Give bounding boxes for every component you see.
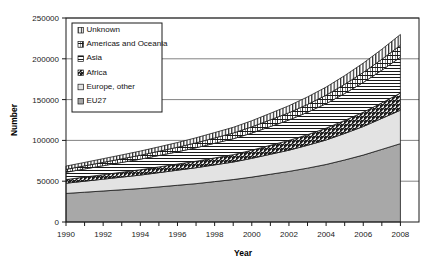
legend-label: Africa [87,68,108,77]
y-tick-label: 100000 [32,136,59,145]
chart-legend: UnknownAmericas and OceaniaAsiaAfricaEur… [72,23,168,112]
y-axis: 050000100000150000200000250000 [32,14,66,227]
x-tick-label: 1992 [94,230,112,239]
legend-swatch [78,42,84,48]
y-tick-label: 200000 [32,55,59,64]
x-tick-label: 2006 [354,230,372,239]
legend-swatch [78,27,84,33]
legend-swatch [78,84,84,90]
y-tick-label: 150000 [32,96,59,105]
legend-swatch [78,56,84,62]
legend-label: Europe, other [87,82,136,91]
x-tick-label: 1994 [131,230,149,239]
legend-label: Asia [87,53,103,62]
x-tick-label: 1998 [206,230,224,239]
chart-canvas: 050000100000150000200000250000 199019921… [0,0,434,261]
x-tick-label: 2000 [243,230,261,239]
y-tick-label: 0 [55,218,60,227]
x-tick-label: 2004 [317,230,335,239]
legend-swatch [78,98,84,104]
x-tick-label: 2002 [280,230,298,239]
stacked-area-chart: 050000100000150000200000250000 199019921… [0,0,434,261]
legend-box [72,23,162,112]
x-tick-label: 2008 [392,230,410,239]
y-tick-label: 50000 [37,177,60,186]
x-axis: 1990199219941996199820002002200420062008 [57,222,410,239]
legend-label: EU27 [87,96,108,105]
x-tick-label: 1996 [169,230,187,239]
y-tick-label: 250000 [32,14,59,23]
legend-label: Americas and Oceania [87,39,168,48]
x-axis-title: Year [234,248,253,258]
y-axis-title: Number [9,103,19,136]
legend-swatch [78,70,84,76]
x-tick-label: 1990 [57,230,75,239]
legend-label: Unknown [87,25,120,34]
